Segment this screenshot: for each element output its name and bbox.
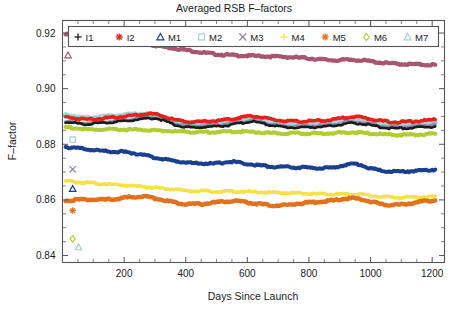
y-tick-label: 0.86 <box>36 194 56 205</box>
chart-container: Averaged RSB F–factors 20040060080010001… <box>0 0 469 316</box>
x-tick-label: 1200 <box>421 268 444 279</box>
chart-legend[interactable]: I1I2M1M2M3M4M5M6M7 <box>69 27 439 47</box>
legend-label-m1: M1 <box>168 32 181 43</box>
y-tick-label: 0.84 <box>36 250 56 261</box>
legend-label-i1: I1 <box>86 32 94 43</box>
legend-label-m5: M5 <box>333 32 346 43</box>
x-tick-label: 400 <box>177 268 194 279</box>
stray-marker-3 <box>69 207 75 213</box>
y-tick-label: 0.92 <box>36 28 56 39</box>
x-tick-label: 800 <box>301 268 318 279</box>
chart-title: Averaged RSB F–factors <box>176 2 292 14</box>
legend-label-m6: M6 <box>374 32 387 43</box>
y-tick-label: 0.88 <box>36 139 56 150</box>
x-tick-label: 600 <box>239 268 256 279</box>
x-axis-label: Days Since Launch <box>208 290 299 302</box>
legend-label-i2: I2 <box>127 32 135 43</box>
legend-marker-m5 <box>322 34 329 41</box>
legend-marker-i2 <box>116 34 123 41</box>
rsb-f-factor-chart: Averaged RSB F–factors 20040060080010001… <box>0 0 469 316</box>
legend-label-m3: M3 <box>250 32 263 43</box>
legend-label-m7: M7 <box>415 32 428 43</box>
y-axis-label: F–factor <box>6 121 18 160</box>
y-tick-label: 0.90 <box>36 83 56 94</box>
legend-label-m2: M2 <box>209 32 222 43</box>
legend-label-m4: M4 <box>292 32 305 43</box>
x-tick-label: 200 <box>116 268 133 279</box>
chart-background <box>0 0 469 316</box>
x-tick-label: 1000 <box>359 268 382 279</box>
